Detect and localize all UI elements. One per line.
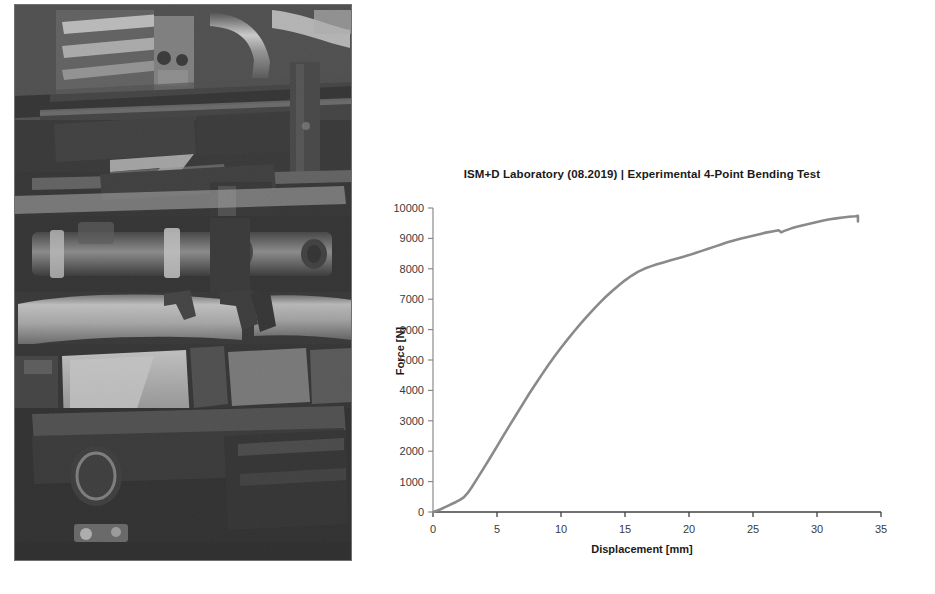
x-axis-tick-label: 5 (494, 523, 500, 535)
y-axis-tick-label: 6000 (400, 324, 424, 336)
y-axis-tick-group: 0100020003000400050006000700080009000100… (393, 202, 433, 518)
y-axis-tick-label: 10000 (393, 202, 424, 214)
x-axis-tick-label: 0 (430, 523, 436, 535)
photo-grain-overlay (14, 4, 352, 561)
force-displacement-chart: ISM+D Laboratory (08.2019) | Experimenta… (362, 160, 922, 570)
x-axis-tick-label: 35 (875, 523, 887, 535)
four-point-bending-test-rig-photo (14, 4, 352, 561)
x-axis-tick-label: 25 (747, 523, 759, 535)
page-root: ISM+D Laboratory (08.2019) | Experimenta… (0, 0, 935, 594)
y-axis-tick-label: 5000 (400, 354, 424, 366)
chart-plot-area: 0100020003000400050006000700080009000100… (362, 160, 922, 570)
y-axis-tick-label: 0 (418, 506, 424, 518)
force-displacement-series (433, 216, 858, 512)
x-axis-tick-label: 10 (555, 523, 567, 535)
x-axis-tick-label: 15 (619, 523, 631, 535)
x-axis-tick-group: 05101520253035 (430, 512, 887, 535)
x-axis-tick-label: 30 (811, 523, 823, 535)
y-axis-tick-label: 7000 (400, 293, 424, 305)
y-axis-tick-label: 1000 (400, 476, 424, 488)
x-axis-tick-label: 20 (683, 523, 695, 535)
y-axis-tick-label: 8000 (400, 263, 424, 275)
y-axis-tick-label: 2000 (400, 445, 424, 457)
y-axis-tick-label: 3000 (400, 415, 424, 427)
y-axis-tick-label: 4000 (400, 384, 424, 396)
y-axis-tick-label: 9000 (400, 232, 424, 244)
photo-illustration (14, 4, 352, 561)
